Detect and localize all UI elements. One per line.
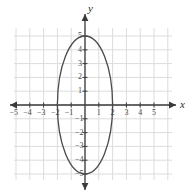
x-tick-label: −4 [23,109,32,117]
x-tick-label: 3 [124,109,128,117]
y-axis-top-arrow [82,14,89,21]
graph-figure: −5−4−3−2−11234554321−1−2−3−4−5 x y [0,0,193,193]
x-tick-label: 4 [138,109,142,117]
y-tick-label: 3 [78,60,82,68]
x-axis-right-arrow [169,102,176,109]
y-tick-label: −5 [75,170,84,178]
y-tick-label: −2 [75,129,84,137]
axes-group [10,14,176,190]
x-tick-label: 2 [111,109,115,117]
y-tick-label: −4 [75,156,84,164]
y-tick-label: 1 [78,87,82,95]
y-axis-bottom-arrow [82,183,89,190]
x-tick-label: −1 [65,109,74,117]
x-tick-label: −2 [51,109,60,117]
y-axis-label: y [88,3,93,14]
x-axis-label: x [180,99,185,110]
x-tick-label: 5 [152,109,156,117]
y-tick-label: −1 [75,115,84,123]
coordinate-plane-svg [0,0,193,193]
y-tick-label: 2 [78,73,82,81]
y-tick-label: −3 [75,142,84,150]
y-tick-label: 5 [78,32,82,40]
y-tick-label: 4 [78,46,82,54]
x-tick-label: −5 [10,109,19,117]
x-tick-label: −3 [37,109,46,117]
grid-vertical-lines [16,28,168,180]
x-tick-label: 1 [97,109,101,117]
grid-lines [14,28,172,180]
